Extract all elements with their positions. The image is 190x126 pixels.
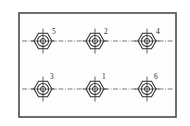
bolt-2-callout-label: 2 (104, 27, 108, 36)
bolt-5-callout-label: 5 (52, 27, 56, 36)
bolt-6-callout-label: 6 (154, 72, 158, 81)
bolt-4-callout-label: 4 (156, 27, 160, 36)
plate-outline (19, 13, 176, 117)
engineering-drawing-canvas: 524316 (0, 0, 190, 126)
plate-outline-group (19, 13, 176, 117)
bolt-3-callout-label: 3 (50, 72, 54, 81)
bolt-pattern-drawing: 524316 (0, 0, 190, 126)
bolt-1-callout-label: 1 (102, 72, 106, 81)
